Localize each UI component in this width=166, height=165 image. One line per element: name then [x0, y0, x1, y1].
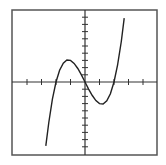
- function-plot: [0, 0, 166, 165]
